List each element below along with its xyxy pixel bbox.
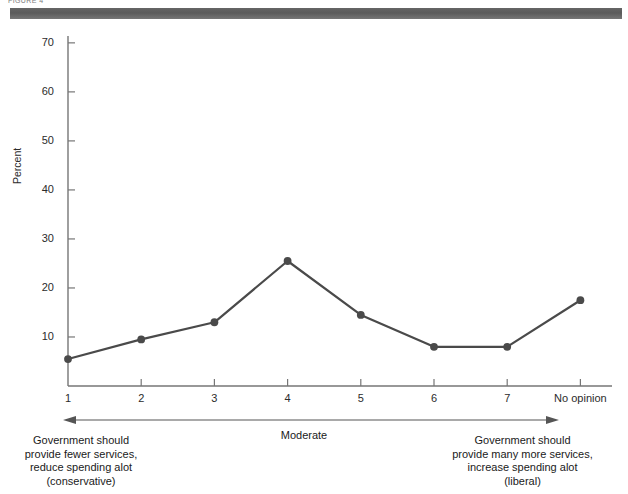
data-point-marker: [357, 311, 365, 319]
data-series-line: [68, 261, 580, 359]
y-axis-tick-label: 20: [28, 281, 54, 293]
data-point-marker: [577, 296, 585, 304]
y-axis-tick-label: 40: [28, 183, 54, 195]
y-axis-tick-label: 10: [28, 330, 54, 342]
annotation-moderate: Moderate: [248, 429, 360, 443]
data-point-marker: [137, 336, 145, 344]
y-axis-tick-label: 50: [28, 134, 54, 146]
y-axis-ticks: [68, 43, 75, 337]
y-axis-tick-label: 60: [28, 85, 54, 97]
data-point-markers: [64, 257, 584, 363]
x-axis-ticks: [141, 379, 580, 386]
data-point-marker: [211, 318, 219, 326]
data-point-marker: [430, 343, 438, 351]
data-point-marker: [503, 343, 511, 351]
annotation-liberal: Government should provide many more serv…: [430, 434, 615, 488]
y-axis-tick-label: 30: [28, 232, 54, 244]
data-point-marker: [64, 355, 72, 363]
annotation-conservative: Government should provide fewer services…: [6, 434, 156, 488]
data-point-marker: [284, 257, 292, 265]
spectrum-double-arrow: [63, 416, 559, 424]
y-axis-tick-label: 70: [28, 36, 54, 48]
x-axis-tick-label: No opinion: [535, 392, 625, 404]
chart-plot-area: 10203040506070 1234567No opinion: [0, 0, 628, 494]
line-chart-svg: [0, 0, 628, 494]
